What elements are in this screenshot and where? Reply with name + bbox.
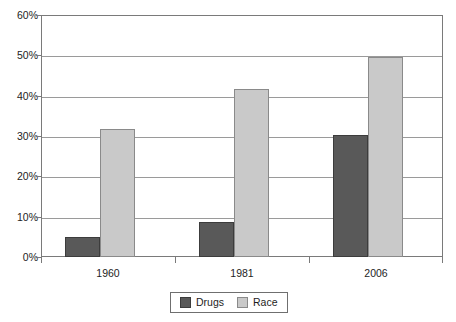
x-axis-tick-mark	[309, 257, 310, 263]
x-axis-tick-mark	[442, 257, 443, 263]
y-axis-tick-label: 50%	[2, 50, 38, 60]
bar-drugs-1981	[199, 222, 234, 257]
y-axis-tick-label: 10%	[2, 212, 38, 222]
bar-race-1960	[100, 129, 135, 257]
bar-chart: 0%10%20%30%40%50%60% 196019812006 DrugsR…	[0, 0, 456, 322]
x-axis-tick-label-1960: 1960	[96, 267, 119, 279]
bars-layer	[41, 15, 443, 257]
x-axis: 196019812006	[41, 257, 443, 287]
bar-race-1981	[234, 89, 269, 257]
y-axis-tick-label: 60%	[2, 10, 38, 20]
x-axis-tick-mark	[175, 257, 176, 263]
legend-label: Drugs	[196, 297, 224, 308]
y-axis-tick-label: 0%	[2, 252, 38, 262]
legend-swatch-drugs-icon	[180, 297, 191, 308]
bar-race-2006	[368, 57, 403, 257]
legend-label: Race	[253, 297, 278, 308]
bar-drugs-2006	[333, 135, 368, 257]
legend-entry-race: Race	[237, 297, 278, 308]
y-axis-tick-label: 20%	[2, 171, 38, 181]
x-axis-tick-label-2006: 2006	[364, 267, 387, 279]
chart-legend: DrugsRace	[170, 292, 288, 313]
y-axis: 0%10%20%30%40%50%60%	[0, 15, 38, 257]
legend-entry-drugs: Drugs	[180, 297, 224, 308]
legend-swatch-race-icon	[237, 297, 248, 308]
bar-drugs-1960	[65, 237, 100, 257]
y-axis-tick-label: 40%	[2, 91, 38, 101]
x-axis-tick-mark	[41, 257, 42, 263]
x-axis-tick-label-1981: 1981	[230, 267, 253, 279]
y-axis-tick-label: 30%	[2, 131, 38, 141]
